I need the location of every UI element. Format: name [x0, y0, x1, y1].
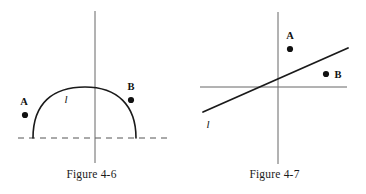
figure-4-7: l A B Figure 4-7 — [183, 0, 366, 194]
point-b-dot — [323, 71, 329, 77]
arc-label-l: l — [64, 93, 67, 105]
point-b-dot — [128, 97, 134, 103]
point-b-label: B — [127, 81, 134, 92]
point-a-dot — [287, 46, 293, 52]
figure-4-7-caption: Figure 4-7 — [183, 168, 366, 180]
point-a-label: A — [20, 96, 28, 107]
figure-4-6-drawing: l A B — [0, 0, 183, 194]
straight-line-l — [203, 48, 348, 112]
semicircle-arc-l — [33, 87, 136, 138]
point-a-dot — [22, 112, 28, 118]
line-label-l: l — [206, 118, 209, 130]
point-a-label: A — [286, 30, 294, 41]
figure-4-7-drawing: l A B — [183, 0, 366, 194]
figure-4-6: l A B Figure 4-6 — [0, 0, 183, 194]
figures-container: l A B Figure 4-6 l A B — [0, 0, 366, 194]
point-b-label: B — [334, 69, 341, 80]
figure-4-6-caption: Figure 4-6 — [0, 168, 183, 180]
